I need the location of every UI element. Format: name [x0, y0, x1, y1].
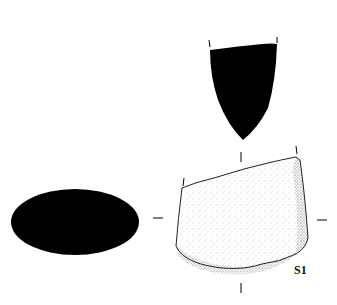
tick-mark [209, 40, 210, 47]
top-section-view [209, 37, 277, 140]
figure-label: S1 [294, 263, 307, 278]
face-view [176, 146, 308, 275]
tick-mark [296, 146, 297, 154]
tick-mark [183, 178, 184, 186]
side-section-view [11, 189, 139, 255]
artifact-drawing [0, 0, 337, 305]
